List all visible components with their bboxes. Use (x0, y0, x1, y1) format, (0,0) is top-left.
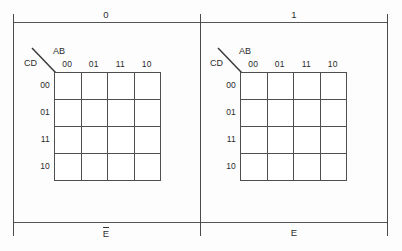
kmap-cell[interactable] (268, 73, 295, 100)
kmap-cell[interactable] (321, 73, 348, 100)
kmap-cell[interactable] (108, 127, 135, 154)
kmap-cell[interactable] (55, 127, 82, 154)
col-header: 01 (267, 59, 294, 69)
map-0-bottom-caption: E (86, 227, 126, 239)
kmap-cell[interactable] (321, 154, 348, 181)
kmap-grid (240, 72, 347, 181)
kmap-cell[interactable] (268, 100, 295, 127)
map-0-top-caption: 0 (86, 9, 126, 20)
right-boundary-line (387, 14, 388, 236)
kmap-cell[interactable] (55, 100, 82, 127)
kmap-cell[interactable] (135, 127, 162, 154)
kmap-cell[interactable] (82, 154, 109, 181)
kmap-cell[interactable] (294, 127, 321, 154)
kmap-cell[interactable] (268, 127, 295, 154)
kmap-cell[interactable] (241, 100, 268, 127)
kmap-cell[interactable] (294, 154, 321, 181)
row-header: 10 (214, 153, 236, 180)
row-header: 11 (28, 126, 50, 153)
kmap-cell[interactable] (321, 127, 348, 154)
kmap-cell[interactable] (294, 100, 321, 127)
row-header: 10 (28, 153, 50, 180)
col-header: 00 (240, 59, 267, 69)
kmap-cell[interactable] (241, 73, 268, 100)
col-header: 11 (107, 59, 134, 69)
column-variable-label: AB (53, 46, 65, 56)
kmap-cell[interactable] (82, 73, 109, 100)
col-header: 00 (54, 59, 81, 69)
kmap-cell[interactable] (82, 127, 109, 154)
kmap-cell[interactable] (55, 154, 82, 181)
col-header: 10 (134, 59, 161, 69)
kmap-cell[interactable] (241, 154, 268, 181)
row-variable-label: CD (210, 58, 223, 68)
kmap-cell[interactable] (108, 154, 135, 181)
kmap-grid (54, 72, 161, 181)
kmap-cell[interactable] (108, 73, 135, 100)
center-divider-line (200, 14, 201, 236)
kmap-cell[interactable] (294, 73, 321, 100)
row-header: 11 (214, 126, 236, 153)
row-header: 00 (28, 72, 50, 99)
map-1-top-caption: 1 (274, 9, 314, 20)
map-1-bottom-caption: E (274, 227, 314, 238)
col-header: 01 (81, 59, 108, 69)
kmap-cell[interactable] (268, 154, 295, 181)
kmap-cell[interactable] (135, 73, 162, 100)
kmap-cell[interactable] (321, 100, 348, 127)
row-header: 01 (28, 99, 50, 126)
kmap-cell[interactable] (135, 154, 162, 181)
kmap-diagram-canvas: 0 1 E E AB CD 00 01 11 10 00 01 11 10 (0, 0, 402, 251)
left-boundary-line (13, 14, 14, 236)
column-variable-label: AB (239, 46, 251, 56)
row-variable-label: CD (24, 58, 37, 68)
row-header: 00 (214, 72, 236, 99)
row-header: 01 (214, 99, 236, 126)
kmap-cell[interactable] (55, 73, 82, 100)
col-header: 10 (320, 59, 347, 69)
kmap-cell[interactable] (82, 100, 109, 127)
kmap-cell[interactable] (135, 100, 162, 127)
kmap-cell[interactable] (108, 100, 135, 127)
e-bar-label: E (103, 227, 109, 239)
kmap-cell[interactable] (241, 127, 268, 154)
col-header: 11 (293, 59, 320, 69)
